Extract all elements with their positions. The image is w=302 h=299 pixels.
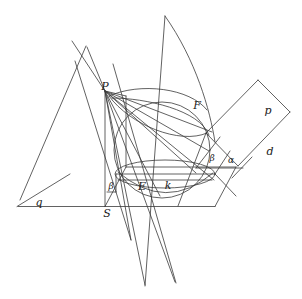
label-S: S: [103, 208, 111, 219]
label-beta-left: β: [108, 182, 113, 191]
label-E: E: [138, 181, 146, 192]
ruling-extension-upper-left: [20, 46, 86, 200]
label-alpha: α: [228, 156, 234, 165]
label-d: d: [266, 146, 273, 157]
label-p: p: [264, 105, 271, 116]
label-F: F: [193, 100, 201, 111]
cutting-plane-edge-bottom-left: [206, 80, 258, 133]
diagram-canvas: [0, 0, 302, 299]
base-plane-right-edge: [215, 167, 236, 207]
cutting-plane-edge-right: [238, 112, 290, 166]
label-P: P: [101, 81, 108, 92]
cutting-plane-edge-top: [258, 80, 290, 112]
label-beta-right: β: [209, 154, 214, 163]
label-q: q: [35, 197, 42, 208]
line-q: [17, 174, 70, 207]
cone-generator-upper-right: [105, 91, 212, 132]
cone-far-outline-arc: [165, 16, 215, 142]
label-k: k: [165, 180, 172, 191]
angle-arrow-ray: [232, 157, 252, 178]
geometry-figure: P F S E k q p d β β α: [0, 0, 302, 299]
